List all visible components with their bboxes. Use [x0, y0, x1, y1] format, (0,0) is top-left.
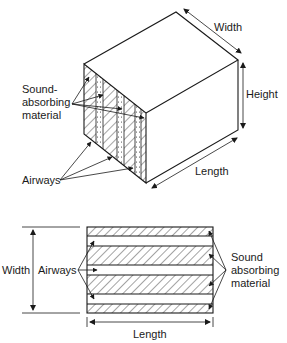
absorber-layer-2 — [87, 246, 213, 265]
label-width: Width — [214, 21, 242, 33]
absorber-layer-4 — [87, 304, 213, 313]
absorber-layer-3 — [87, 275, 213, 294]
label-sound-absorbing-2: absorbing — [22, 96, 70, 108]
length-dimension-arrow — [152, 138, 237, 188]
section-label-length: Length — [133, 328, 167, 340]
label-height: Height — [246, 88, 278, 100]
label-sound-absorbing-3: material — [22, 109, 61, 121]
section-label-sound-3: material — [231, 277, 270, 289]
absorber-layer-1 — [87, 227, 213, 236]
label-sound-absorbing-1: Sound- — [22, 83, 58, 95]
section-label-sound-2: absorbing — [231, 264, 279, 276]
airway-2 — [117, 90, 124, 166]
airway-1 — [96, 74, 103, 150]
section-view: Width Airways Length Sound absorbing mat… — [2, 227, 279, 340]
label-airways: Airways — [22, 174, 61, 186]
silencer-diagram: Width Height Length Sound- absorbing mat… — [0, 0, 287, 343]
airway-layer-1 — [87, 236, 213, 246]
baffle-1 — [84, 64, 96, 144]
isometric-view: Width Height Length Sound- absorbing mat… — [22, 9, 278, 188]
section-label-airways: Airways — [38, 264, 77, 276]
baffle-3 — [124, 96, 135, 175]
airway-layer-3 — [87, 294, 213, 304]
airway-layer-2 — [87, 265, 213, 275]
baffle-2 — [103, 79, 117, 160]
label-length: Length — [195, 165, 229, 177]
airway-3 — [135, 104, 141, 179]
section-label-sound-1: Sound — [231, 251, 263, 263]
section-label-width: Width — [2, 264, 30, 276]
